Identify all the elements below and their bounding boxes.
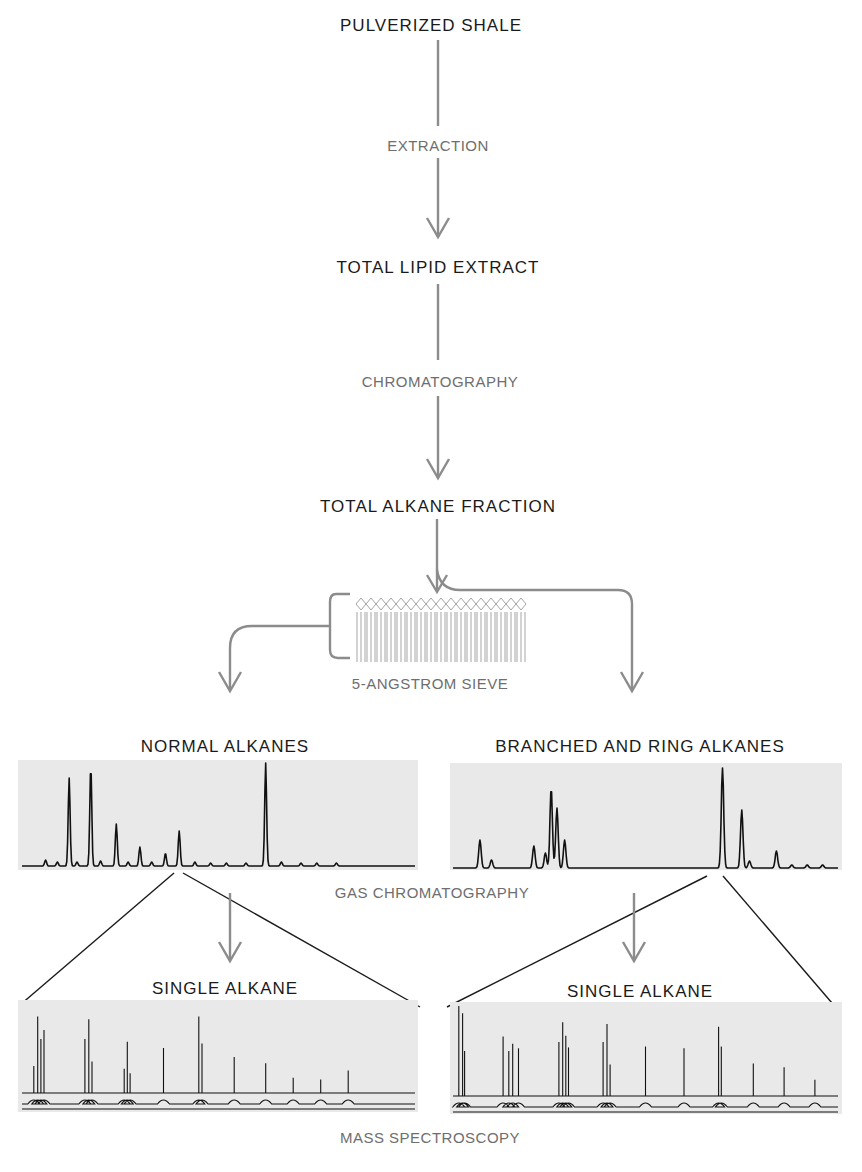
step-chromatography: CHROMATOGRAPHY <box>362 373 518 390</box>
zoom-line <box>723 876 838 1010</box>
step-mass-spectroscopy: MASS SPECTROSCOPY <box>340 1129 520 1146</box>
branched-gc-panel <box>450 763 842 870</box>
normal-flow-arrow <box>230 626 330 690</box>
sieve-bracket <box>330 594 350 658</box>
step-extraction: EXTRACTION <box>387 137 489 154</box>
alkane-analysis-diagram: PULVERIZED SHALE EXTRACTION TOTAL LIPID … <box>0 0 862 1172</box>
sieve-pores <box>356 598 526 662</box>
branched-flow-arrow <box>437 570 632 690</box>
node-normal-alkanes: NORMAL ALKANES <box>141 737 309 756</box>
left-mass-spectrum-panel <box>18 1000 418 1112</box>
node-total-lipid-extract: TOTAL LIPID EXTRACT <box>337 258 540 277</box>
node-single-alkane-left: SINGLE ALKANE <box>152 979 298 998</box>
molecular-sieve-graphic <box>356 598 526 662</box>
step-sieve: 5-ANGSTROM SIEVE <box>352 675 508 692</box>
node-single-alkane-right: SINGLE ALKANE <box>567 982 713 1001</box>
node-branched-ring-alkanes: BRANCHED AND RING ALKANES <box>495 737 785 756</box>
step-gas-chromatography: GAS CHROMATOGRAPHY <box>335 884 529 901</box>
normal-gc-panel <box>18 760 418 870</box>
node-total-alkane-fraction: TOTAL ALKANE FRACTION <box>320 497 556 516</box>
node-pulverized-shale: PULVERIZED SHALE <box>340 16 522 35</box>
